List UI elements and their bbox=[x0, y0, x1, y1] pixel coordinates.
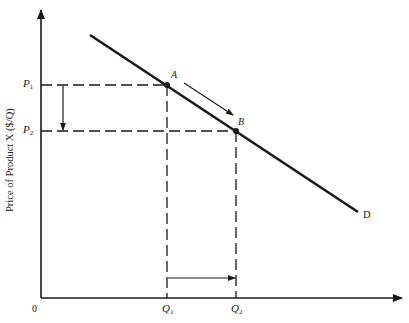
point-b bbox=[233, 128, 239, 134]
p2-label: P2 bbox=[23, 124, 33, 137]
movement-arrow bbox=[184, 83, 233, 115]
demand-diagram bbox=[0, 0, 409, 323]
point-a-label: A bbox=[171, 70, 177, 80]
y-axis-label: Price of Product X ($/Q) bbox=[4, 108, 15, 212]
q2-label: Q2 bbox=[231, 303, 242, 316]
q1-label: Q1 bbox=[162, 303, 173, 316]
point-b-label: B bbox=[238, 117, 244, 127]
point-a bbox=[164, 82, 170, 88]
origin-label: 0 bbox=[32, 304, 37, 314]
demand-curve-label: D bbox=[363, 210, 371, 221]
p1-label: P1 bbox=[23, 78, 33, 91]
demand-curve bbox=[90, 35, 358, 212]
